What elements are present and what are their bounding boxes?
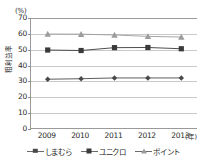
data-point-marker (45, 47, 50, 52)
square-marker-icon (81, 147, 98, 156)
legend-item[interactable]: しまむら (27, 146, 72, 157)
triangle-marker-icon (135, 147, 152, 156)
data-point-marker (179, 75, 184, 80)
legend-item[interactable]: ユニクロ (81, 146, 126, 157)
data-point-marker (179, 46, 184, 51)
y-tick-label: 10 (9, 109, 27, 117)
data-point-marker (78, 76, 83, 81)
chart-legend: しまむらユニクロポイント (0, 144, 207, 158)
y-tick-label: 0 (9, 125, 27, 133)
y-tick-label: 30 (9, 78, 27, 86)
legend-label: ユニクロ (99, 146, 126, 157)
data-point-marker (112, 45, 117, 50)
data-point-marker (45, 77, 50, 82)
y-tick-mark (28, 129, 31, 130)
y-tick-label: 60 (9, 30, 27, 38)
legend-label: しまむら (45, 146, 72, 157)
x-axis-tick-labels: 20092010201120122013 (30, 131, 197, 143)
series-layer (31, 18, 198, 129)
x-tick-label: 2010 (71, 131, 89, 140)
y-axis-tick-labels: 010203040506070 (10, 0, 27, 159)
x-tick-label: 2009 (38, 131, 56, 140)
plot-area (30, 18, 197, 129)
data-point-marker (145, 75, 150, 80)
x-axis-unit-label: (年) (185, 131, 197, 141)
legend-label: ポイント (153, 146, 180, 157)
x-tick-label: 2012 (138, 131, 156, 140)
x-tick-label: 2011 (105, 131, 123, 140)
data-point-marker (112, 75, 117, 80)
y-tick-label: 50 (9, 46, 27, 54)
line-chart: (%) 粗利益率 010203040506070 200920102011201… (0, 0, 207, 159)
y-tick-label: 70 (9, 14, 27, 22)
data-point-marker (145, 45, 150, 50)
data-point-marker (79, 48, 84, 53)
y-tick-label: 20 (9, 94, 27, 102)
y-tick-label: 40 (9, 62, 27, 70)
diamond-marker-icon (27, 147, 44, 156)
legend-item[interactable]: ポイント (135, 146, 180, 157)
